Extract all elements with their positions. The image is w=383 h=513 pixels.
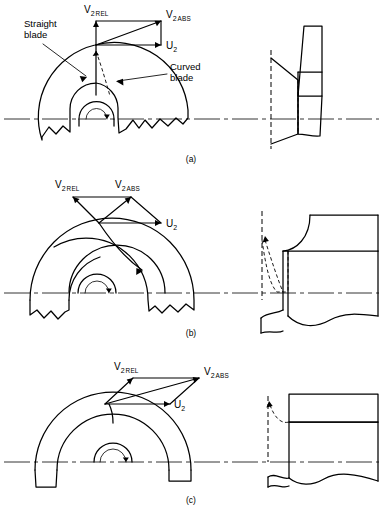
vector-c-u2-arrowhead [164, 401, 170, 407]
leader-straight-blade-arrowhead [80, 76, 87, 82]
panel-a: V2REL V2ABS U2 Straight blade Curved bla… [4, 4, 379, 164]
section-c-projection [270, 405, 289, 422]
vector-a-u2-arrowhead [155, 42, 161, 48]
section-c-break-left-bottom [268, 486, 289, 487]
panel-c: V2REL V2ABS U2 (c) [4, 361, 379, 505]
rotation-arrowhead-c [123, 457, 129, 462]
label-straight-blade-line2: blade [24, 29, 47, 40]
label-curved-blade-line2: blade [170, 72, 193, 83]
section-c-projection-arrowhead [266, 401, 272, 407]
label-a-u2: U2 [166, 40, 177, 53]
label-b-u2: U2 [166, 218, 177, 231]
impeller-b-outer-band-break-left [30, 300, 69, 319]
vector-b-v2abs-arrowhead [125, 197, 131, 204]
curved-blade-a [96, 51, 110, 96]
impeller-c-band-left-end [35, 470, 57, 487]
section-b-projection-arrowhead [263, 236, 269, 243]
label-c-v2abs: V2ABS [204, 366, 229, 379]
section-b-break-left [261, 310, 283, 318]
label-a-v2rel: V2REL [84, 4, 109, 17]
section-c-blade-band [289, 394, 378, 422]
section-b-projection-2 [262, 240, 288, 292]
panel-b: V2REL V2ABS U2 (b) [4, 179, 379, 338]
caption-c: (c) [186, 495, 196, 505]
label-b-v2abs: V2ABS [115, 179, 140, 192]
section-a-blade-outline [298, 26, 322, 96]
figure-canvas: V2REL V2ABS U2 Straight blade Curved bla… [0, 0, 383, 513]
label-b-v2rel: V2REL [55, 179, 80, 192]
impeller-a-hub-arc [79, 102, 114, 120]
label-c-v2rel: V2REL [114, 361, 139, 374]
section-b-break-right [288, 314, 378, 325]
section-c-break-bottom [289, 474, 378, 484]
section-a-flange [271, 58, 298, 144]
rotation-arrowhead-b [106, 288, 112, 293]
section-b-projection-1 [265, 240, 283, 292]
vector-a-v2rel-arrowhead [93, 21, 99, 27]
section-b-left-break-bottom [261, 331, 283, 333]
label-curved-blade-line1: Curved [170, 61, 201, 72]
vector-b-tie-right [131, 197, 161, 223]
impeller-b-inner-shroud [69, 245, 165, 293]
label-c-u2: U2 [174, 399, 185, 412]
leader-curved-blade [118, 74, 167, 81]
leader-curved-blade-arrowhead [116, 79, 123, 86]
impeller-b-outer-band [30, 218, 194, 313]
section-c-break-left [268, 475, 289, 478]
engineering-figure: V2REL V2ABS U2 Straight blade Curved bla… [0, 0, 383, 513]
section-b-shroud-curve [283, 215, 310, 251]
curved-blade-arrowhead-a [93, 51, 99, 56]
rotation-arc-c [100, 449, 126, 462]
leader-straight-blade [43, 44, 86, 76]
caption-b: (b) [186, 328, 197, 338]
label-a-v2abs: V2ABS [166, 9, 191, 22]
vector-a-v2abs-shaft [96, 21, 161, 45]
impeller-c-band-right-end [169, 470, 191, 481]
rotation-arrowhead-a [104, 114, 110, 119]
label-straight-blade-line1: Straight [24, 18, 57, 29]
rotation-arc-a [86, 109, 107, 119]
rotation-arc-b [85, 281, 109, 293]
vector-c-v2rel-arrowhead [127, 378, 133, 385]
section-a-hub-outline [298, 72, 322, 136]
caption-a: (a) [186, 154, 197, 164]
